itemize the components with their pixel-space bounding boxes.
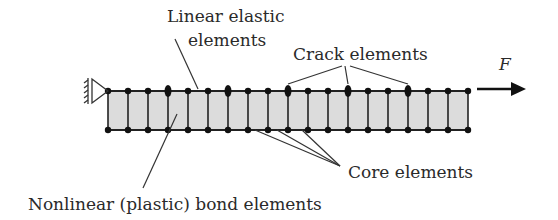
beam	[105, 85, 471, 133]
core-elements-label: Core elements	[348, 162, 473, 182]
top-node	[325, 88, 331, 94]
crack-element-node	[285, 85, 292, 97]
bottom-node	[145, 127, 151, 133]
bottom-node	[445, 127, 451, 133]
bottom-node	[105, 127, 111, 133]
bottom-node	[225, 127, 231, 133]
linear-elastic-label: Linear elastic	[167, 6, 285, 26]
top-node	[265, 88, 271, 94]
bottom-node	[405, 127, 411, 133]
top-node	[305, 88, 311, 94]
force-label: F	[498, 54, 512, 74]
top-node	[465, 88, 471, 94]
bottom-node	[205, 127, 211, 133]
crack-elements-label: Crack elements	[293, 44, 428, 64]
bottom-node	[125, 127, 131, 133]
bottom-node	[265, 127, 271, 133]
top-node	[425, 88, 431, 94]
force-arrow-icon	[477, 82, 526, 96]
bottom-node	[185, 127, 191, 133]
bottom-node	[285, 127, 291, 133]
bottom-node	[365, 127, 371, 133]
bottom-node	[385, 127, 391, 133]
bottom-node	[305, 127, 311, 133]
bar-model-diagram: Linear elastic elements Crack elements F…	[0, 0, 558, 220]
crack-element-node	[345, 85, 352, 97]
bottom-node	[465, 127, 471, 133]
bottom-node	[325, 127, 331, 133]
fixed-support-icon	[84, 78, 108, 104]
crack-element-node	[225, 85, 232, 97]
top-node	[245, 88, 251, 94]
bottom-node	[425, 127, 431, 133]
bottom-node	[345, 127, 351, 133]
top-node	[205, 88, 211, 94]
linear-elastic-label-line2: elements	[188, 30, 266, 50]
top-node	[365, 88, 371, 94]
bond-elements-label: Nonlinear (plastic) bond elements	[28, 194, 322, 214]
bottom-node	[245, 127, 251, 133]
crack-element-node	[165, 85, 172, 97]
top-node	[145, 88, 151, 94]
top-node	[185, 88, 191, 94]
crack-element-node	[405, 85, 412, 97]
top-node	[385, 88, 391, 94]
top-node	[445, 88, 451, 94]
top-node	[125, 88, 131, 94]
